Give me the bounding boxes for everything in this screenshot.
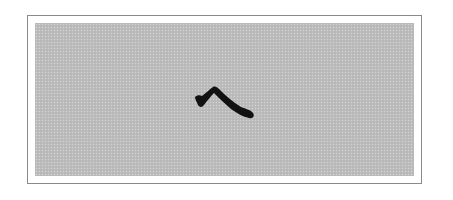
halftone-panel: 乀 xyxy=(35,23,414,176)
figure-frame: 乀 xyxy=(27,15,422,184)
brush-stroke-icon xyxy=(193,85,257,121)
glyph-label: 乀 xyxy=(35,23,36,24)
